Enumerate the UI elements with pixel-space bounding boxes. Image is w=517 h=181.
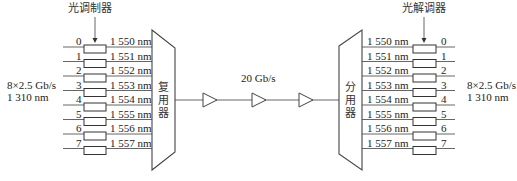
rx-channel-index: 0 bbox=[441, 36, 447, 47]
tx-channel-index: 5 bbox=[76, 109, 82, 120]
tx-channel-wavelength: 1 557 nm bbox=[110, 138, 152, 149]
rx-channel-wavelength: 1 555 nm bbox=[367, 109, 409, 120]
tx-channel-index: 7 bbox=[76, 138, 82, 149]
tx-channel-wavelength: 1 555 nm bbox=[110, 109, 152, 120]
rx-channel-wavelength: 1 554 nm bbox=[367, 94, 409, 105]
rx-channel-index: 6 bbox=[441, 123, 447, 134]
amplifier-icon-3 bbox=[299, 93, 313, 107]
tx-channel-index: 4 bbox=[76, 94, 82, 105]
modulator-label: 光调制器 bbox=[68, 3, 112, 14]
diagram-canvas bbox=[0, 0, 517, 181]
tx-input-wavelength: 1 310 nm bbox=[7, 92, 49, 103]
tx-channel-index: 1 bbox=[76, 51, 82, 62]
amplifier-icon-1 bbox=[203, 93, 217, 107]
tx-channel-index: 2 bbox=[76, 65, 82, 76]
rx-output-rate: 8×2.5 Gb/s bbox=[467, 80, 516, 91]
rx-channel-index: 1 bbox=[441, 51, 447, 62]
tx-input-rate: 8×2.5 Gb/s bbox=[7, 80, 56, 91]
tx-channel-wavelength: 1 553 nm bbox=[110, 80, 152, 91]
tx-channel-wavelength: 1 550 nm bbox=[110, 36, 152, 47]
tx-channel-wavelength: 1 551 nm bbox=[110, 51, 152, 62]
tx-channel-wavelength: 1 556 nm bbox=[110, 123, 152, 134]
rx-channel-wavelength: 1 556 nm bbox=[367, 123, 409, 134]
rx-channel-index: 2 bbox=[441, 65, 447, 76]
mux-char: 用 bbox=[157, 94, 169, 107]
tx-channel-index: 6 bbox=[76, 123, 82, 134]
rx-channel-wavelength: 1 552 nm bbox=[367, 65, 409, 76]
tx-channel-index: 3 bbox=[76, 80, 82, 91]
tx-channel-wavelength: 1 554 nm bbox=[110, 94, 152, 105]
modulator-arrow-icon bbox=[93, 38, 98, 43]
mux-char: 器 bbox=[157, 107, 169, 120]
mux-char: 复 bbox=[157, 81, 169, 94]
wdm-diagram: 光调制器 光解调器 8×2.5 Gb/s 1 310 nm 8×2.5 Gb/s… bbox=[0, 0, 517, 181]
tx-channel-index: 0 bbox=[76, 36, 82, 47]
rx-channel-index: 3 bbox=[441, 80, 447, 91]
rx-channel-index: 4 bbox=[441, 94, 447, 105]
rx-channel-wavelength: 1 553 nm bbox=[367, 80, 409, 91]
demux-char: 器 bbox=[344, 107, 356, 120]
rx-channel-index: 7 bbox=[441, 138, 447, 149]
rx-channel-index: 5 bbox=[441, 109, 447, 120]
tx-channel-wavelength: 1 552 nm bbox=[110, 65, 152, 76]
rx-demodulator-boxes bbox=[413, 45, 436, 155]
demodulator-label: 光解调器 bbox=[402, 3, 446, 14]
amplifier-icon-2 bbox=[252, 93, 266, 107]
rx-channel-wavelength: 1 551 nm bbox=[367, 51, 409, 62]
rx-channel-wavelength: 1 550 nm bbox=[367, 36, 409, 47]
tx-modulator-boxes bbox=[84, 45, 106, 155]
rx-output-wavelength: 1 310 nm bbox=[467, 92, 509, 103]
demodulator-arrow-icon bbox=[422, 38, 427, 43]
demux-label: 分 用 器 bbox=[344, 81, 356, 120]
mux-label: 复 用 器 bbox=[157, 81, 169, 120]
demux-char: 分 bbox=[344, 81, 356, 94]
rx-channel-wavelength: 1 557 nm bbox=[367, 138, 409, 149]
link-rate-label: 20 Gb/s bbox=[241, 73, 276, 84]
demux-char: 用 bbox=[344, 94, 356, 107]
